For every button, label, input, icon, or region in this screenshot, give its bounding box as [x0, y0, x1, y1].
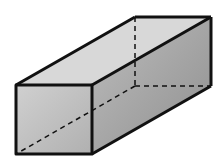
front-face [16, 85, 92, 154]
rectangular-prism-diagram [0, 0, 224, 166]
